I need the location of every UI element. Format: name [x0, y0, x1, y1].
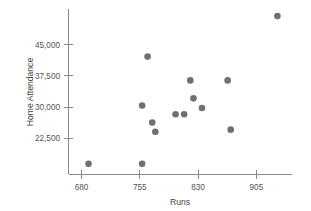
data-point — [149, 119, 156, 126]
x-tick-680: 680 — [75, 170, 89, 192]
data-point — [187, 77, 194, 84]
y-tick-label: 37,500 — [35, 72, 60, 81]
data-point — [139, 161, 146, 168]
x-axis-title: Runs — [170, 197, 190, 207]
y-axis-ticks: 45,000 37,500 30,000 22,500 — [35, 41, 73, 144]
y-tick-22500: 22,500 — [35, 134, 73, 143]
y-tick-37500: 37,500 — [35, 72, 73, 81]
y-tick-label: 45,000 — [35, 41, 60, 50]
x-tick-label: 680 — [75, 183, 89, 192]
data-point — [224, 77, 231, 84]
y-tick-30000: 30,000 — [35, 103, 73, 112]
data-point — [199, 105, 206, 112]
data-point — [139, 102, 146, 109]
chart-canvas: 45,000 37,500 30,000 22,500 680 — [0, 0, 311, 211]
axes-group — [69, 9, 293, 175]
x-tick-label: 830 — [191, 183, 205, 192]
data-point — [274, 13, 281, 20]
x-tick-905: 905 — [250, 170, 264, 192]
x-tick-755: 755 — [133, 170, 147, 192]
scatter-plot-figure: 45,000 37,500 30,000 22,500 680 — [0, 0, 311, 211]
x-tick-label: 755 — [133, 183, 147, 192]
y-tick-45000: 45,000 — [35, 41, 73, 50]
y-axis-title: Home Attendance — [25, 58, 35, 127]
data-point — [227, 126, 234, 133]
x-tick-830: 830 — [191, 170, 205, 192]
data-point — [181, 111, 188, 118]
data-point — [85, 161, 92, 168]
data-point — [172, 111, 179, 118]
data-point — [152, 128, 159, 135]
y-tick-label: 30,000 — [35, 103, 60, 112]
y-tick-label: 22,500 — [35, 134, 60, 143]
data-point — [144, 53, 151, 60]
x-axis-ticks: 680 755 830 905 — [75, 170, 264, 192]
data-points-layer — [85, 13, 280, 167]
x-tick-label: 905 — [250, 183, 264, 192]
data-point — [190, 95, 197, 102]
